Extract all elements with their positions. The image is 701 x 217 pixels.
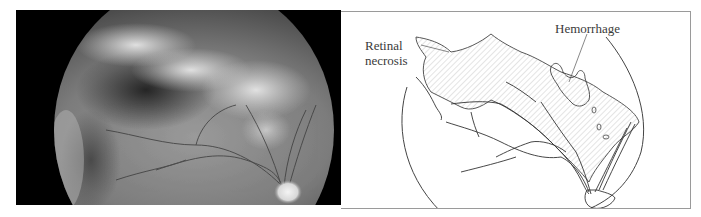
fundus-photograph <box>16 10 341 205</box>
retinal-necrosis-label-line1: Retinal <box>365 38 408 53</box>
fundus-image <box>16 10 341 205</box>
necrosis-region <box>416 34 639 182</box>
schematic-drawing: Retinal necrosis Hemorrhage <box>341 11 691 209</box>
retinal-necrosis-label-line2: necrosis <box>365 53 408 68</box>
optic-disc <box>585 190 615 208</box>
hemorrhage-label: Hemorrhage <box>555 21 620 36</box>
retinal-necrosis-label: Retinal necrosis <box>365 38 408 68</box>
